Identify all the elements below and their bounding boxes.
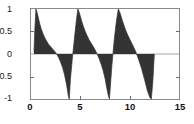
y-tick-mark-m0p5: [30, 77, 34, 78]
y-tick-label-m0p5: -0.5: [0, 72, 12, 81]
x-tick-mark-5: [80, 96, 81, 100]
x-tick-label-15: 15: [165, 102, 194, 112]
y-tick-label-0p5: 0.5: [0, 27, 12, 36]
y-tick-label-0: 0: [0, 50, 12, 59]
x-tick-mark-10: [130, 96, 131, 100]
chart-svg: [31, 9, 179, 99]
x-tick-label-5: 5: [65, 102, 95, 112]
plot-area: [30, 8, 180, 100]
x-tick-label-0: 0: [15, 102, 45, 112]
y-tick-mark-right-m0p5: [176, 77, 180, 78]
y-tick-mark-right-0p5: [176, 31, 180, 32]
y-tick-label-1: 1: [0, 5, 12, 14]
figure: 1 0.5 0 -0.5 -1 0 5 10 15: [0, 0, 194, 124]
y-tick-label-m1: -1: [0, 94, 12, 103]
x-tick-label-10: 10: [115, 102, 145, 112]
y-tick-mark-0p5: [30, 31, 34, 32]
